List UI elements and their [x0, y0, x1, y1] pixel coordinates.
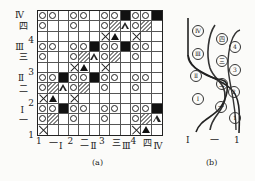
caption-b: (b): [206, 158, 217, 167]
circled-label: Ⅲ: [192, 48, 204, 60]
curve-end-label: 1: [234, 136, 240, 145]
curve-end-label: Ⅰ: [186, 136, 190, 145]
circled-label: 4: [229, 41, 241, 53]
circled-label: Ⅱ: [190, 70, 202, 82]
circled-label: 3: [229, 64, 241, 76]
circled-label: 一: [215, 101, 227, 113]
circled-label: Ⅰ: [192, 93, 204, 105]
circled-label: 1: [229, 112, 241, 124]
chromosome-pairing-curves: [0, 0, 255, 181]
circled-label: 2: [228, 86, 240, 98]
circled-label: Ⅳ: [192, 25, 204, 37]
curve-end-label: 一: [210, 136, 219, 145]
circled-label: 四: [216, 33, 228, 45]
circled-label: 三: [216, 55, 228, 67]
circled-label: 二: [216, 78, 228, 90]
